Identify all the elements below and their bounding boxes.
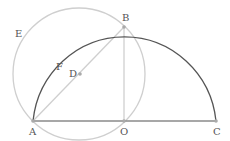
- point-B: [122, 25, 126, 29]
- label-B: B: [122, 12, 129, 23]
- label-E: E: [15, 28, 22, 39]
- geometry-diagram: A B O C D E F: [0, 0, 230, 141]
- label-O: O: [120, 126, 128, 137]
- point-A: [31, 119, 35, 123]
- label-C: C: [213, 126, 221, 137]
- point-O: [122, 119, 126, 123]
- label-A: A: [28, 126, 37, 137]
- point-C: [214, 119, 218, 123]
- label-F: F: [56, 61, 63, 72]
- point-D: [78, 72, 82, 76]
- label-D: D: [69, 68, 77, 79]
